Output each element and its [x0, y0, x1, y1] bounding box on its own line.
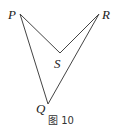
label-q: Q: [36, 101, 46, 116]
segment-sr: [60, 14, 99, 53]
figure-caption: 图 10: [48, 115, 74, 126]
label-p: P: [7, 7, 16, 22]
label-s: S: [54, 56, 61, 71]
label-r: R: [101, 7, 110, 22]
quadrilateral-diagram: P R S Q 图 10: [0, 0, 120, 134]
